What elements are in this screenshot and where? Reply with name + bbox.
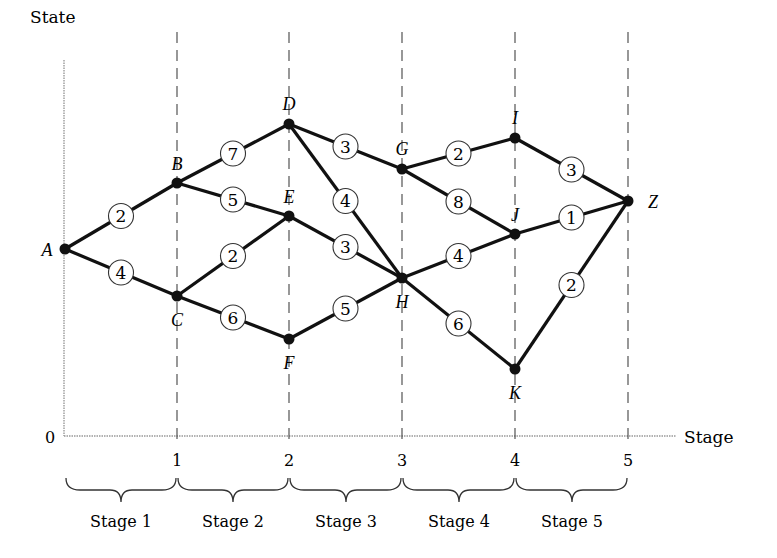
x-tick-5: 5 — [623, 451, 633, 470]
stage-label-1: Stage 1 — [90, 512, 152, 531]
node-label-g: G — [396, 139, 409, 159]
node-label-z: Z — [648, 192, 659, 212]
edge-weight-c-e: 2 — [221, 244, 246, 269]
node-label-k: K — [508, 383, 522, 403]
x-tick-3: 3 — [397, 451, 407, 470]
node-label-d: D — [282, 94, 296, 114]
stage-gridlines — [177, 32, 628, 440]
stage-braces — [66, 478, 627, 502]
node-f — [284, 334, 295, 345]
weight-value: 5 — [228, 190, 239, 210]
x-tick-1: 1 — [172, 451, 182, 470]
weight-value: 4 — [340, 191, 351, 211]
edge-weight-f-h: 5 — [333, 296, 358, 321]
node-c — [172, 291, 183, 302]
node-d — [284, 119, 295, 130]
node-g — [397, 164, 408, 175]
x-axis-label: Stage — [684, 427, 734, 447]
stage-network-diagram: State Stage 0 1 2 3 4 5 Stage 1 Stage 2 … — [0, 0, 777, 558]
x-tick-2: 2 — [284, 451, 294, 470]
edge-weight-j-z: 1 — [559, 205, 584, 230]
node-label-c: C — [171, 310, 184, 330]
edge-weight-i-z: 3 — [559, 157, 584, 182]
edge-weight-g-j: 8 — [446, 189, 471, 214]
node-e — [284, 211, 295, 222]
stage-label-3: Stage 3 — [315, 512, 377, 531]
node-label-i: I — [511, 108, 519, 128]
edge-weight-c-f: 6 — [221, 305, 246, 330]
edge-weight-d-h: 4 — [333, 189, 358, 214]
stage-label-4: Stage 4 — [428, 512, 490, 531]
edge-weight-b-e: 5 — [221, 187, 246, 212]
weight-value: 2 — [566, 275, 577, 295]
node-label-b: B — [172, 154, 183, 174]
node-label-e: E — [283, 187, 295, 207]
weight-value: 2 — [228, 246, 239, 266]
edge-weight-h-j: 4 — [446, 244, 471, 269]
node-label-j: J — [511, 205, 520, 225]
edge-weight-b-d: 7 — [221, 141, 246, 166]
stage-label-2: Stage 2 — [202, 512, 264, 531]
node-j — [510, 229, 521, 240]
stage-label-5: Stage 5 — [541, 512, 603, 531]
weight-value: 6 — [228, 308, 239, 328]
weight-value: 2 — [453, 144, 464, 164]
weight-value: 3 — [340, 237, 351, 257]
weight-value: 7 — [228, 144, 239, 164]
node-h — [397, 273, 408, 284]
y-axis-label: State — [30, 7, 76, 27]
origin-label: 0 — [45, 428, 55, 447]
weight-value: 3 — [566, 160, 577, 180]
weight-value: 3 — [340, 137, 351, 157]
weight-value: 4 — [116, 263, 127, 283]
node-label-f: F — [283, 353, 296, 373]
edge-weight-k-z: 2 — [559, 273, 584, 298]
weight-value: 1 — [566, 208, 577, 228]
weight-value: 4 — [453, 246, 464, 266]
edge-weight-e-h: 3 — [333, 235, 358, 260]
weight-value: 5 — [340, 299, 351, 319]
edge-weight-d-g: 3 — [333, 134, 358, 159]
x-tick-4: 4 — [510, 451, 520, 470]
edge-weight-a-c: 4 — [109, 260, 134, 285]
node-label-a: A — [41, 240, 54, 260]
edge-weight-h-k: 6 — [446, 311, 471, 336]
node-a — [60, 244, 71, 255]
node-label-h: H — [395, 292, 410, 312]
node-b — [172, 178, 183, 189]
stage-labels: Stage 1 Stage 2 Stage 3 Stage 4 Stage 5 — [90, 512, 603, 531]
weight-value: 2 — [116, 206, 127, 226]
weight-value: 8 — [453, 192, 464, 212]
node-z — [623, 196, 634, 207]
node-i — [510, 133, 521, 144]
node-k — [510, 364, 521, 375]
edge-weight-a-b: 2 — [109, 204, 134, 229]
x-tick-labels: 1 2 3 4 5 — [172, 451, 633, 470]
edge-weight-g-i: 2 — [446, 141, 471, 166]
weight-value: 6 — [453, 314, 464, 334]
